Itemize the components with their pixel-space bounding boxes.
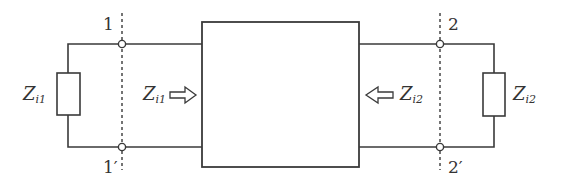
right-load-branch	[440, 44, 505, 147]
right-input-impedance-label: Zi2	[399, 83, 423, 106]
left-arrow-icon	[366, 87, 393, 103]
terminal-2prime-node	[436, 143, 443, 150]
left-load-label: Zi1	[22, 83, 46, 106]
terminal-1prime-label: 1′	[103, 157, 118, 177]
terminal-2prime-label: 2′	[448, 157, 463, 177]
right-bottom-wire	[440, 116, 494, 147]
left-load-branch	[57, 44, 122, 147]
left-load-impedance	[57, 73, 80, 115]
terminal-2-node	[436, 40, 443, 47]
right-load-label: Zi2	[512, 83, 536, 106]
terminal-1-node	[118, 40, 125, 47]
terminal-1prime-node	[118, 143, 125, 150]
right-top-wire	[440, 44, 494, 73]
left-top-wire	[68, 44, 122, 73]
right-load-impedance	[483, 73, 505, 116]
left-bottom-wire	[68, 115, 122, 147]
two-port-network-diagram: 1 1′ 2 2′ Zi1 Zi1 Zi2 Zi2	[0, 0, 564, 186]
two-port-network-box	[202, 22, 359, 167]
terminal-1-label: 1	[103, 14, 114, 34]
left-input-impedance-label: Zi1	[142, 83, 166, 106]
terminal-2-label: 2	[448, 14, 459, 34]
right-arrow-icon	[170, 87, 196, 103]
